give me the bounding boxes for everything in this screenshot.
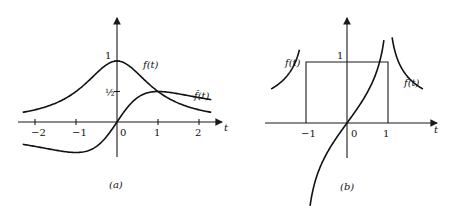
x-tick-label-a: 0 bbox=[120, 127, 126, 138]
label-f-b: f(t) bbox=[284, 57, 301, 68]
series-fhat-b-left bbox=[271, 50, 299, 89]
x-tick-label-a: −1 bbox=[72, 127, 87, 138]
x-tick-label-a: 1 bbox=[154, 127, 160, 138]
x-tick-label-b: 1 bbox=[383, 128, 389, 139]
label-f-a: f(t) bbox=[142, 59, 159, 70]
xlabel-b: t bbox=[434, 124, 439, 135]
label-fhat-b: f̂(t) bbox=[403, 77, 420, 88]
panel-a: −2−10121½ f(t) f̂(t) t (a) bbox=[18, 18, 229, 190]
panel-label-a: (a) bbox=[109, 179, 123, 190]
x-tick-label-a: −2 bbox=[31, 127, 46, 138]
figure: −2−10121½ f(t) f̂(t) t (a) −1011 f(t) f̂… bbox=[0, 0, 459, 211]
y-tick-label-b: 1 bbox=[337, 50, 343, 61]
label-fhat-a: f̂(t) bbox=[193, 90, 210, 101]
x-tick-label-a: 2 bbox=[195, 127, 201, 138]
y-tick-label-a: ½ bbox=[105, 87, 115, 98]
x-tick-label-b: 0 bbox=[351, 128, 357, 139]
y-tick-label-a: 1 bbox=[105, 50, 111, 61]
panel-b: −1011 f(t) f̂(t) t (b) bbox=[265, 18, 439, 206]
panel-label-b: (b) bbox=[340, 181, 354, 192]
xlabel-a: t bbox=[224, 122, 229, 133]
x-tick-label-b: −1 bbox=[301, 128, 316, 139]
